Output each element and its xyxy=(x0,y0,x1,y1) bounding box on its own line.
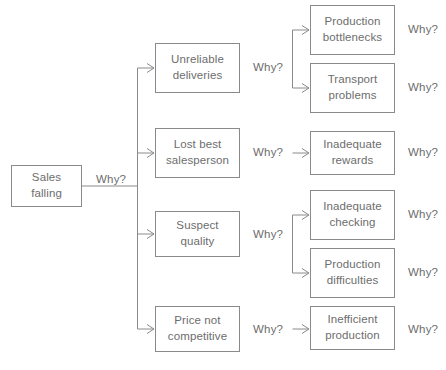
why-label-level1: Why? xyxy=(96,174,126,186)
why-label-level3-4: Why? xyxy=(408,209,438,221)
node-production-difficulties[interactable]: Production difficulties xyxy=(310,248,395,298)
node-label: Transport problems xyxy=(328,72,378,103)
node-transport-problems[interactable]: Transport problems xyxy=(310,63,395,113)
root-node-sales-falling[interactable]: Sales falling xyxy=(11,165,82,207)
why-label-level2-1: Why? xyxy=(253,62,283,74)
why-label-level2-2: Why? xyxy=(253,147,283,159)
node-label: Price not competitive xyxy=(168,313,227,344)
node-inadequate-checking[interactable]: Inadequate checking xyxy=(310,190,395,240)
node-label: Inefficient production xyxy=(325,312,380,343)
why-label-level3-3: Why? xyxy=(408,147,438,159)
node-production-bottlenecks[interactable]: Production bottlenecks xyxy=(310,5,395,55)
root-node-label: Sales falling xyxy=(31,170,62,201)
node-label: Production bottlenecks xyxy=(323,14,382,45)
node-label: Inadequate checking xyxy=(323,199,382,230)
node-label: Unreliable deliveries xyxy=(171,52,224,83)
node-price-not-competitive[interactable]: Price not competitive xyxy=(155,306,240,352)
node-suspect-quality[interactable]: Suspect quality xyxy=(155,211,240,257)
node-inefficient-production[interactable]: Inefficient production xyxy=(310,306,395,350)
why-why-diagram: Sales falling Why? Unreliable deliveries… xyxy=(0,0,446,370)
node-label: Inadequate rewards xyxy=(323,137,382,168)
node-lost-best-salesperson[interactable]: Lost best salesperson xyxy=(155,128,240,178)
why-label-level3-5: Why? xyxy=(408,267,438,279)
why-label-level3-2: Why? xyxy=(408,82,438,94)
why-label-level3-6: Why? xyxy=(408,324,438,336)
node-label: Suspect quality xyxy=(176,218,218,249)
why-label-level2-4: Why? xyxy=(253,324,283,336)
why-label-level2-3: Why? xyxy=(253,229,283,241)
node-label: Production difficulties xyxy=(325,257,381,288)
node-unreliable-deliveries[interactable]: Unreliable deliveries xyxy=(155,43,240,93)
node-inadequate-rewards[interactable]: Inadequate rewards xyxy=(310,131,395,175)
node-label: Lost best salesperson xyxy=(166,137,229,168)
why-label-level3-1: Why? xyxy=(408,24,438,36)
